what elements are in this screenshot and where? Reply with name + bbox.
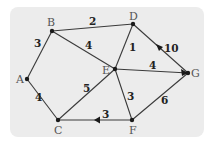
weight-e-f: 3 <box>127 90 134 102</box>
weight-g-d: 10 <box>164 42 179 54</box>
node-label-d: D <box>129 10 138 23</box>
arrow-f-to-c-icon <box>94 117 100 124</box>
node-label-g: G <box>191 67 200 80</box>
weight-e-g: 4 <box>149 59 156 71</box>
node-c <box>56 118 60 122</box>
weight-c-e: 5 <box>83 82 90 94</box>
node-label-f: F <box>129 124 137 137</box>
node-label-c: C <box>54 124 62 137</box>
weight-a-c: 4 <box>35 91 42 103</box>
node-f <box>130 118 134 122</box>
edge-a-c <box>27 79 58 120</box>
weight-f-c: 3 <box>102 108 109 120</box>
weight-e-d: 1 <box>129 41 136 53</box>
node-label-e: E <box>102 64 110 77</box>
edge-f-g <box>132 73 188 120</box>
node-g <box>186 71 190 75</box>
node-label-b: B <box>47 16 55 29</box>
node-e <box>113 67 117 71</box>
weight-b-e: 4 <box>85 39 92 51</box>
node-a <box>25 77 29 81</box>
weight-a-b: 3 <box>34 37 41 49</box>
weight-b-d: 2 <box>89 15 96 27</box>
node-b <box>50 29 54 33</box>
weight-f-g: 6 <box>161 94 168 106</box>
graph-canvas: A B C D E F G 3 2 4 4 5 1 4 3 10 3 6 <box>0 0 214 144</box>
node-label-a: A <box>15 73 25 86</box>
